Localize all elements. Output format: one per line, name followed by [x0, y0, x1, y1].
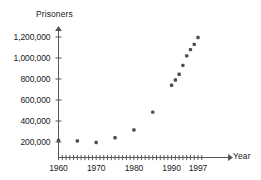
data-point — [193, 43, 196, 46]
data-point — [57, 139, 60, 142]
data-points — [57, 36, 200, 144]
plot-area — [0, 0, 261, 180]
axes — [55, 26, 233, 161]
data-point — [185, 54, 188, 57]
x-axis-arrow-icon — [228, 154, 233, 161]
data-point — [151, 110, 154, 113]
data-point — [76, 139, 79, 142]
data-point — [189, 48, 192, 51]
data-point — [177, 73, 180, 76]
data-point — [196, 36, 199, 39]
data-point — [170, 84, 173, 87]
y-axis-arrow-icon — [55, 26, 62, 31]
data-point — [95, 141, 98, 144]
data-point — [132, 128, 135, 131]
data-point — [113, 136, 116, 139]
data-point — [174, 78, 177, 81]
data-point — [181, 64, 184, 67]
prisoners-scatter-chart: Prisoners Year 200,000400,000600,000800,… — [0, 0, 261, 180]
